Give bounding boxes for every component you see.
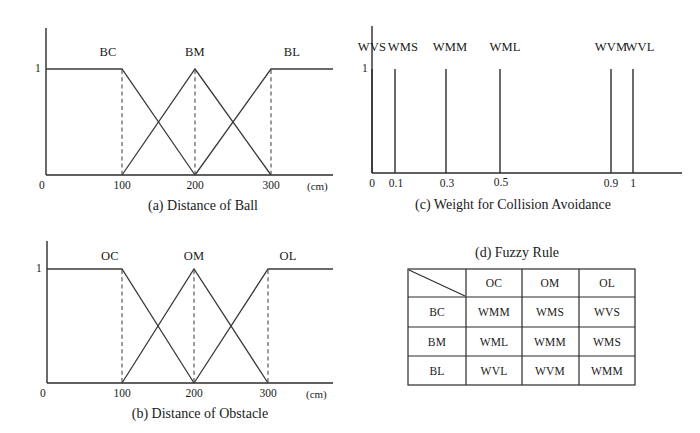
panel-c-set-label-wvl: WVL xyxy=(625,41,654,54)
panel-a-set-label-bc: BC xyxy=(99,46,116,59)
panel-c-set-label-wml: WML xyxy=(489,41,520,54)
table-cell-bm-om: WMM xyxy=(534,336,566,348)
panel-c-weight-for-collision-avoidance: WVS WMS WMM WML WVM WVL 1 0 0.1 0.3 0.5 … xyxy=(350,0,700,220)
panel-b-set-label-ol: OL xyxy=(279,250,296,263)
panel-a-caption: (a) Distance of Ball xyxy=(148,199,258,213)
panel-a-distance-of-ball: BC BM BL 1 0 100 200 300 (cm) (a) Distan… xyxy=(0,0,350,220)
panel-c-x-tick-0-1: 0.1 xyxy=(389,178,403,190)
table-cell-bm-ol: WMS xyxy=(593,336,621,348)
table-col-header-ol: OL xyxy=(599,277,615,289)
panel-c-set-label-wvs: WVS xyxy=(358,41,386,54)
panel-b-set-label-oc: OC xyxy=(101,250,119,263)
fuzzy-rule-table-grid xyxy=(350,236,700,406)
table-row-header-bm: BM xyxy=(428,336,446,348)
table-cell-bl-om: WVM xyxy=(535,365,565,377)
panel-b-unit-label: (cm) xyxy=(306,389,327,400)
panel-b-origin-label: 0 xyxy=(40,388,46,400)
table-col-header-oc: OC xyxy=(486,277,502,289)
panel-a-set-label-bl: BL xyxy=(284,46,300,59)
panel-b-set-label-om: OM xyxy=(184,250,205,263)
panel-a-mf-bl xyxy=(195,69,333,175)
panel-b-plot xyxy=(0,236,350,396)
panel-a-plot xyxy=(0,0,350,220)
table-cell-bc-ol: WVS xyxy=(594,306,620,318)
panel-a-x-tick-300: 300 xyxy=(262,180,279,192)
panel-c-x-tick-0: 0 xyxy=(369,178,375,190)
panel-c-x-tick-0-3: 0.3 xyxy=(440,178,454,190)
panel-b-x-tick-200: 200 xyxy=(185,388,202,400)
table-row-header-bc: BC xyxy=(429,306,445,318)
panel-b-mf-oc xyxy=(47,269,194,383)
panel-a-mf-bc xyxy=(46,69,195,175)
panel-a-x-tick-200: 200 xyxy=(186,180,203,192)
panel-c-caption: (c) Weight for Collision Avoidance xyxy=(415,198,611,212)
panel-c-set-label-wmm: WMM xyxy=(433,41,468,54)
panel-b-mf-om xyxy=(122,269,268,383)
table-cell-bm-oc: WML xyxy=(480,336,509,348)
panel-c-x-tick-0-5: 0.5 xyxy=(494,177,508,189)
panel-a-unit-label: (cm) xyxy=(307,181,328,192)
figure-root: BC BM BL 1 0 100 200 300 (cm) (a) Distan… xyxy=(0,0,700,433)
table-cell-bl-ol: WMM xyxy=(591,365,623,377)
panel-c-x-tick-0-9: 0.9 xyxy=(604,178,618,190)
panel-c-set-label-wvm: WVM xyxy=(595,41,628,54)
panel-b-y-tick-1: 1 xyxy=(36,263,42,275)
panel-d-caption: (d) Fuzzy Rule xyxy=(475,246,559,260)
panel-b-distance-of-obstacle: OC OM OL 1 0 100 200 300 (cm) (b) Distan… xyxy=(0,236,350,433)
panel-c-set-label-wms: WMS xyxy=(388,41,418,54)
table-row-header-bl: BL xyxy=(429,365,444,377)
panel-b-caption: (b) Distance of Obstacle xyxy=(132,407,268,421)
panel-a-y-tick-1: 1 xyxy=(35,63,41,75)
panel-b-x-tick-100: 100 xyxy=(113,388,130,400)
table-cell-bc-oc: WMM xyxy=(478,306,510,318)
panel-a-mf-bm xyxy=(122,69,271,175)
panel-c-y-tick-1: 1 xyxy=(362,63,368,75)
panel-c-x-tick-1: 1 xyxy=(630,178,636,190)
panel-a-set-label-bm: BM xyxy=(185,46,205,59)
table-col-header-om: OM xyxy=(541,277,560,289)
table-cell-bl-oc: WVL xyxy=(481,365,508,377)
table-corner-diagonal xyxy=(409,270,465,296)
table-cell-bc-om: WMS xyxy=(536,306,564,318)
panel-b-mf-ol xyxy=(194,269,333,383)
panel-a-origin-label: 0 xyxy=(39,180,45,192)
panel-b-x-tick-300: 300 xyxy=(259,388,276,400)
panel-a-x-tick-100: 100 xyxy=(113,180,130,192)
panel-d-fuzzy-rule: (d) Fuzzy Rule OC OM OL BC WMM WMS WVS B… xyxy=(350,236,700,433)
